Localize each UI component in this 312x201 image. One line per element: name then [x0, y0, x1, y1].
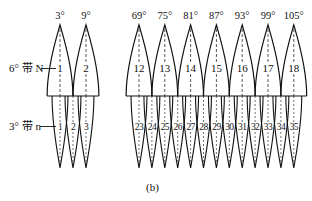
three-degree-zone-number: 3 — [84, 122, 88, 132]
central-meridian-label: 81° — [183, 10, 198, 21]
six-degree-zone-label: 6° 带 N — [9, 63, 43, 74]
three-degree-zone-number: 2 — [71, 122, 75, 132]
zone-diagram — [0, 0, 312, 201]
three-degree-zone-number: 35 — [290, 122, 298, 132]
six-degree-zone-number: 13 — [159, 63, 171, 74]
six-degree-zone-number: 2 — [83, 63, 90, 74]
central-meridian-label: 3° — [55, 10, 64, 21]
figure-caption: (b) — [146, 181, 159, 193]
six-degree-zone-number: 17 — [262, 63, 274, 74]
three-degree-zone-number: 30 — [225, 122, 233, 132]
central-meridian-label: 69° — [132, 10, 147, 21]
three-degree-zone-number: 34 — [277, 122, 285, 132]
three-degree-zone-number: 26 — [174, 122, 182, 132]
six-degree-zone-number: 12 — [133, 63, 145, 74]
three-degree-zone-number: 32 — [251, 122, 259, 132]
three-degree-zone-number: 28 — [199, 122, 207, 132]
six-degree-zone-number: 14 — [185, 63, 197, 74]
central-meridian-label: 99° — [261, 10, 276, 21]
central-meridian-label: 87° — [209, 10, 224, 21]
three-degree-zone-number: 23 — [135, 122, 143, 132]
central-meridian-label: 75° — [157, 10, 172, 21]
central-meridian-label: 93° — [235, 10, 250, 21]
six-degree-zone-number: 1 — [57, 63, 64, 74]
central-meridian-label: 9° — [81, 10, 90, 21]
three-degree-zone-number: 29 — [212, 122, 220, 132]
three-degree-zone-number: 24 — [148, 122, 156, 132]
three-degree-zone-number: 33 — [264, 122, 272, 132]
six-degree-zone-number: 16 — [236, 63, 248, 74]
six-degree-zone-number: 18 — [288, 63, 300, 74]
three-degree-zone-label: 3° 带 n — [9, 121, 41, 132]
six-degree-zone-number: 15 — [210, 63, 222, 74]
three-degree-zone-number: 31 — [238, 122, 246, 132]
central-meridian-label: 105° — [284, 10, 304, 21]
three-degree-zone-number: 1 — [58, 122, 62, 132]
three-degree-zone-number: 25 — [161, 122, 169, 132]
three-degree-zone-number: 27 — [186, 122, 194, 132]
